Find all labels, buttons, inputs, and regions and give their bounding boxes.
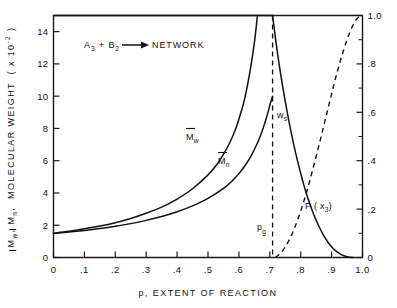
left-tick-label: 10 — [37, 91, 48, 102]
px3-label-main: P ( x — [305, 201, 325, 211]
y-axis-title-paren-close: ) — [6, 27, 16, 31]
bottom-tick-label: .2 — [111, 264, 120, 275]
right-tick-label: .8 — [368, 58, 377, 69]
mn-label-main: M — [218, 156, 226, 166]
right-tick-label: .6 — [368, 107, 377, 118]
svg-text:p, EXTENT OF REACTION: p, EXTENT OF REACTION — [139, 288, 278, 298]
bottom-tick-label: .1 — [80, 264, 89, 275]
left-tick-label: 4 — [43, 187, 49, 198]
bottom-tick-label: .4 — [173, 264, 182, 275]
left-tick-label: 12 — [37, 58, 48, 69]
chart-figure: 02468101214 0.2.4.6.81.0 0.1.2.3.4.5.6.7… — [0, 0, 397, 308]
left-tick-label: 6 — [43, 155, 49, 166]
right-tick-label: 0 — [368, 252, 374, 263]
y-axis-title-m2: M — [6, 216, 16, 225]
y-axis-title-paren-open: ( x 10 — [6, 43, 16, 74]
left-tick-label: 0 — [43, 252, 49, 263]
y-axis-title-m1: M — [6, 239, 16, 248]
left-tick-label: 8 — [43, 123, 49, 134]
bottom-tick-label: .5 — [204, 264, 213, 275]
bottom-tick-label: 1.0 — [355, 264, 369, 275]
ws-label-main: w — [276, 110, 284, 120]
bottom-tick-label: .9 — [327, 264, 336, 275]
bottom-tick-label: 0 — [51, 264, 57, 275]
left-tick-label: 2 — [43, 220, 49, 231]
left-tick-label: 14 — [37, 26, 48, 37]
right-tick-label: .4 — [368, 155, 377, 166]
mw-label-main: M — [186, 132, 194, 142]
y-axis-title-text: MOLECULAR WEIGHT — [6, 82, 16, 199]
y-axis-title-exponent: -2 — [4, 35, 11, 44]
molecular-weight-chart: 02468101214 0.2.4.6.81.0 0.1.2.3.4.5.6.7… — [0, 0, 397, 308]
pg-label-sub: g — [262, 228, 266, 236]
px3-label-close: ) — [329, 201, 332, 211]
y-axis-title-m1-sub: w — [11, 232, 18, 239]
ws-label-sub: s — [284, 115, 288, 122]
reactant-b-label: B — [108, 40, 115, 50]
right-tick-label: 1.0 — [368, 10, 382, 21]
right-tick-label: .2 — [368, 204, 377, 215]
x-axis-title-text: EXTENT OF REACTION — [153, 288, 278, 298]
bottom-tick-label: .8 — [296, 264, 305, 275]
mn-label-sub: n — [226, 161, 230, 168]
reaction-product-label: NETWORK — [152, 40, 204, 50]
mw-label-sub: w — [193, 137, 199, 144]
bottom-tick-label: .6 — [235, 264, 244, 275]
reactant-b-subscript: 2 — [115, 45, 120, 52]
x-axis-title: p, EXTENT OF REACTION — [139, 288, 278, 298]
bottom-tick-label: .3 — [142, 264, 151, 275]
reactant-a-label: A — [84, 40, 91, 50]
bottom-tick-label: .7 — [265, 264, 274, 275]
